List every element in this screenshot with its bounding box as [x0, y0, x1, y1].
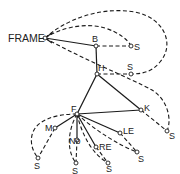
label-b: B — [92, 34, 98, 44]
label-k: K — [144, 103, 150, 113]
edge-frame-s-h-outer — [45, 11, 167, 74]
label-re: RE — [99, 142, 112, 152]
node-s-b[interactable] — [129, 44, 133, 48]
label-s-b: S — [134, 42, 140, 52]
node-re[interactable] — [94, 145, 98, 149]
label-s-le: S — [138, 154, 144, 164]
label-no: No — [69, 136, 81, 146]
node-s-no[interactable] — [74, 161, 78, 165]
node-m[interactable] — [53, 126, 57, 130]
label-f: F — [71, 104, 77, 114]
label-m: M — [45, 123, 53, 133]
node-le[interactable] — [118, 131, 122, 135]
label-s-h: S — [127, 62, 133, 72]
labels: FRAME B S H S F K S M S No S RE S LE S — [8, 32, 175, 174]
edge-b-h — [96, 46, 97, 74]
node-s-h[interactable] — [129, 72, 133, 76]
label-s-m: S — [34, 161, 40, 171]
edge-h-f — [77, 74, 97, 114]
label-h: H — [98, 63, 105, 73]
node-k[interactable] — [139, 108, 143, 112]
edge-h-k — [97, 74, 141, 110]
node-b[interactable] — [94, 44, 98, 48]
frame-network-diagram: FRAME B S H S F K S M S No S RE S LE S — [0, 0, 180, 174]
node-s-m[interactable] — [36, 156, 40, 160]
edge-f-k — [77, 110, 141, 114]
label-s-re: S — [106, 164, 112, 174]
label-s-no: S — [72, 166, 78, 174]
label-frame: FRAME — [8, 32, 45, 44]
edge-k-s-k — [141, 110, 167, 131]
edge-f-le — [77, 114, 120, 133]
label-s-k: S — [169, 131, 175, 141]
label-le: LE — [123, 126, 134, 136]
edge-frame-s-k — [45, 38, 169, 131]
